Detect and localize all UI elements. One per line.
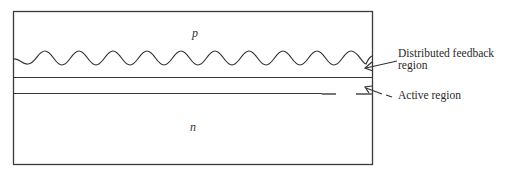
active-region-label: Active region: [398, 89, 461, 102]
active-arrow-icon: [365, 86, 392, 97]
dfb-label-line-1: Distributed feedback: [398, 47, 494, 59]
grating-corrugation: [14, 51, 373, 65]
dfb-label-line-2: region: [398, 59, 428, 72]
p-region-label: p: [191, 26, 198, 40]
dfb-laser-diagram: p n Distributed feedback region Active r…: [0, 0, 509, 174]
dfb-arrow-icon: [365, 61, 397, 71]
n-region-label: n: [190, 120, 196, 134]
